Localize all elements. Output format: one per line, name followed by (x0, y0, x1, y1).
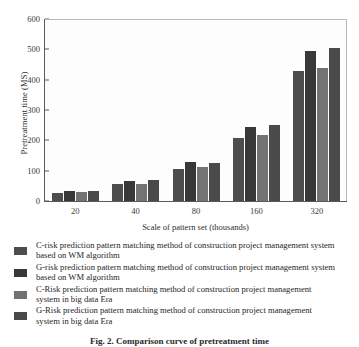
x-axis-title: Scale of pattern set (thousands) (44, 222, 347, 232)
legend-item: C-Risk prediction pattern matching metho… (14, 284, 346, 305)
y-axis-tick-label: 0 (36, 196, 45, 206)
bar (293, 71, 304, 201)
figure-chart: algorithm of the pattern set is shown in… (0, 0, 359, 347)
bar (317, 68, 328, 201)
x-axis-tick-label: 160 (250, 206, 263, 216)
bar (209, 163, 220, 201)
bar (197, 167, 208, 201)
bar (305, 51, 316, 201)
bar-group: 40 (105, 19, 165, 201)
bar-group: 160 (226, 19, 286, 201)
bar (112, 184, 123, 201)
bar (88, 191, 99, 201)
legend-item: G-risk prediction pattern matching metho… (14, 262, 346, 283)
y-axis-tick-label: 600 (27, 14, 45, 24)
plot-area: 0100200300400500600 204080160320 (44, 19, 347, 202)
bar-group: 80 (166, 19, 226, 201)
bar (136, 184, 147, 201)
x-axis-tick-label: 320 (310, 206, 323, 216)
bar-groups: 204080160320 (45, 19, 347, 201)
y-axis-tick-label: 100 (27, 166, 45, 176)
y-axis-tick-label: 400 (27, 75, 45, 85)
bar (233, 138, 244, 201)
legend-color-swatch (14, 312, 27, 320)
y-axis-tick-label: 300 (27, 105, 45, 115)
legend-item-label: G-risk prediction pattern matching metho… (36, 262, 336, 283)
bar (329, 48, 340, 201)
bar (52, 193, 63, 201)
bar (257, 135, 268, 201)
bar (173, 169, 184, 201)
bar (245, 127, 256, 201)
figure-caption: Fig. 2. Comparison curve of pretreatment… (0, 336, 359, 346)
bar (185, 162, 196, 201)
y-axis-tick-label: 500 (27, 44, 45, 54)
bar (64, 191, 75, 201)
legend-item-label: G-Risk prediction pattern matching metho… (36, 305, 336, 326)
bar (148, 180, 159, 201)
bar (269, 125, 280, 201)
legend-item-label: C-Risk prediction pattern matching metho… (36, 284, 336, 305)
legend-item: C-risk prediction pattern matching metho… (14, 240, 346, 261)
x-axis-tick-label: 80 (192, 206, 201, 216)
bar-group: 320 (287, 19, 347, 201)
legend-color-swatch (14, 291, 27, 299)
bar (124, 181, 135, 201)
legend-color-swatch (14, 247, 27, 255)
x-axis-tick-label: 20 (71, 206, 80, 216)
bar (76, 192, 87, 201)
legend-item-label: C-risk prediction pattern matching metho… (36, 240, 336, 261)
chart-legend: C-risk prediction pattern matching metho… (14, 240, 346, 327)
x-axis-tick-label: 40 (131, 206, 140, 216)
bar-group: 20 (45, 19, 105, 201)
legend-item: G-Risk prediction pattern matching metho… (14, 305, 346, 326)
legend-color-swatch (14, 269, 27, 277)
y-axis-tick-label: 200 (27, 135, 45, 145)
